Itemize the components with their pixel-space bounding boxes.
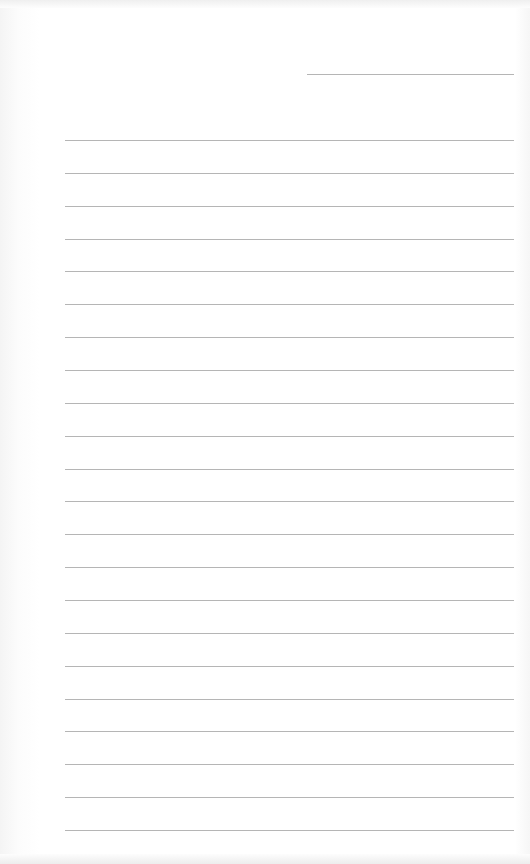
paper-top-edge: [0, 0, 530, 8]
ruled-line: [65, 271, 514, 272]
ruled-line: [65, 764, 514, 765]
ruled-line: [65, 534, 514, 535]
ruled-line: [65, 239, 514, 240]
ruled-line: [65, 699, 514, 700]
ruled-line: [65, 173, 514, 174]
ruled-line: [65, 370, 514, 371]
ruled-line: [65, 830, 514, 831]
ruled-line: [65, 666, 514, 667]
ruled-line: [65, 600, 514, 601]
paper-bottom-edge: [0, 854, 530, 864]
ruled-line: [65, 567, 514, 568]
ruled-line: [65, 731, 514, 732]
lined-paper-sheet: [0, 0, 530, 864]
ruled-line: [65, 304, 514, 305]
ruled-line: [65, 436, 514, 437]
ruled-line: [65, 633, 514, 634]
ruled-line: [65, 140, 514, 141]
ruled-line: [65, 403, 514, 404]
ruled-line: [65, 501, 514, 502]
header-date-line: [307, 74, 514, 75]
ruled-line: [65, 797, 514, 798]
ruled-line: [65, 337, 514, 338]
ruled-line: [65, 206, 514, 207]
ruled-line: [65, 469, 514, 470]
